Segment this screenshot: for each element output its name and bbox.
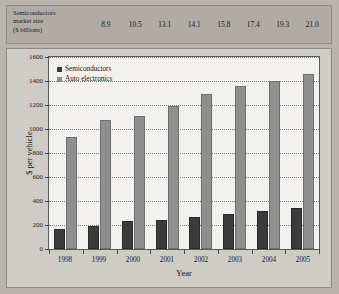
y-axis-tick-label: 1200: [13, 101, 43, 109]
market-size-value: 13.1: [150, 20, 180, 29]
x-axis-tick: [252, 249, 253, 254]
bar-group: [150, 57, 184, 249]
market-size-value: 14.1: [180, 20, 210, 29]
y-axis-tick-label: 1600: [13, 53, 43, 61]
bar-semiconductors[interactable]: [122, 221, 133, 249]
bar-group: [218, 57, 252, 249]
bar-group: [252, 57, 286, 249]
market-size-value: 19.3: [268, 20, 298, 29]
bar-semiconductors[interactable]: [156, 220, 167, 249]
x-axis-tick: [83, 249, 84, 254]
y-axis-tick-label: 400: [13, 197, 43, 205]
y-axis-tick-label: 0: [13, 245, 43, 253]
bar-auto-electronics[interactable]: [134, 116, 145, 249]
y-axis-tick-label: 800: [13, 149, 43, 157]
bar-group: [117, 57, 151, 249]
bar-auto-electronics[interactable]: [269, 81, 280, 249]
bar-semiconductors[interactable]: [257, 211, 268, 249]
x-axis-tick: [184, 249, 185, 254]
x-axis-tick: [150, 249, 151, 254]
bar-semiconductors[interactable]: [189, 217, 200, 249]
market-size-value: 8.9: [91, 20, 121, 29]
x-axis-tick-label: 1998: [48, 256, 82, 264]
y-axis-tick-label: 1400: [13, 77, 43, 85]
x-axis-title: Year: [48, 268, 320, 278]
x-axis-tick-labels: 19981999200020012002200320042005: [48, 256, 320, 264]
bar-auto-electronics[interactable]: [201, 94, 212, 249]
market-size-strip: Semiconductors market size ($ billions) …: [6, 5, 332, 44]
market-size-values: 8.910.513.114.115.817.419.321.0: [91, 20, 327, 29]
market-size-label-line1: Semiconductors: [13, 9, 87, 17]
x-axis-tick: [117, 249, 118, 254]
y-axis-tick-label: 600: [13, 173, 43, 181]
market-size-label: Semiconductors market size ($ billions): [13, 9, 87, 34]
market-size-value: 10.5: [121, 20, 151, 29]
bar-semiconductors[interactable]: [54, 229, 65, 249]
market-size-value: 21.0: [298, 20, 328, 29]
bar-group: [184, 57, 218, 249]
bar-auto-electronics[interactable]: [168, 106, 179, 249]
x-axis-tick-label: 2004: [252, 256, 286, 264]
y-axis-tick-label: 200: [13, 221, 43, 229]
y-axis-tick-label: 1000: [13, 125, 43, 133]
bar-semiconductors[interactable]: [223, 214, 234, 249]
x-axis-tick-label: 2000: [116, 256, 150, 264]
x-axis-tick: [49, 249, 50, 254]
market-size-value: 17.4: [239, 20, 269, 29]
bar-group: [285, 57, 319, 249]
market-size-label-line3: ($ billions): [13, 26, 87, 34]
x-axis-tick-label: 2003: [218, 256, 252, 264]
x-axis-tick: [218, 249, 219, 254]
x-axis-tick-label: 2001: [150, 256, 184, 264]
market-size-value: 15.8: [209, 20, 239, 29]
bar-auto-electronics[interactable]: [100, 120, 111, 249]
bar-group: [49, 57, 83, 249]
market-size-label-line2: market size: [13, 17, 87, 25]
x-axis-tick-label: 1999: [82, 256, 116, 264]
bar-group: [83, 57, 117, 249]
bar-auto-electronics[interactable]: [66, 137, 77, 249]
bar-groups: [49, 57, 319, 249]
bar-auto-electronics[interactable]: [303, 74, 314, 249]
chart-page: Semiconductors market size ($ billions) …: [0, 0, 339, 294]
plot-area: Semiconductors Auto electronics 02004006…: [48, 56, 320, 250]
x-axis-tick-label: 2005: [286, 256, 320, 264]
bar-semiconductors[interactable]: [88, 226, 99, 249]
bar-semiconductors[interactable]: [291, 208, 302, 249]
chart-frame: $ per vehicle Semiconductors Auto electr…: [6, 48, 332, 288]
bar-auto-electronics[interactable]: [235, 86, 246, 249]
x-axis-tick: [285, 249, 286, 254]
x-axis-tick: [319, 249, 320, 254]
x-axis-tick-label: 2002: [184, 256, 218, 264]
